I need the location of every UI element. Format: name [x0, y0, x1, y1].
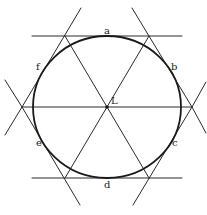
- label-b: b: [171, 62, 177, 72]
- label-d: d: [104, 180, 110, 190]
- label-e: e: [36, 138, 42, 148]
- extension-left-up: [5, 80, 22, 107]
- tangent-line-f: [22, 8, 81, 107]
- label-a: a: [104, 26, 110, 36]
- extension-left-down: [5, 107, 22, 135]
- label-c: c: [172, 138, 178, 148]
- tangent-line-e: [22, 107, 80, 205]
- tangent-line-b: [132, 8, 192, 107]
- tangent-line-c: [133, 107, 192, 205]
- center-point: [105, 105, 109, 109]
- extension-right-down: [192, 107, 206, 133]
- label-center-L: L: [111, 96, 118, 106]
- label-f: f: [36, 62, 40, 72]
- extension-right-up: [192, 82, 206, 107]
